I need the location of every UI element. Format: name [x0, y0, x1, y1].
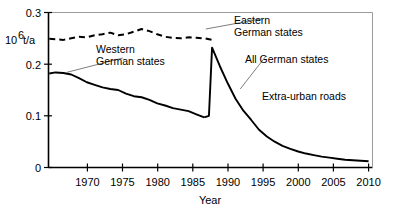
y-unit-base: 10 [5, 34, 17, 46]
annotation-extra-urban-roads: Extra-urban roads [262, 90, 346, 102]
y-tick-label-0.1: 0.1 [26, 110, 41, 122]
series-label-eastern-line1: Eastern [234, 14, 270, 26]
x-tick-label-2005: 2005 [321, 176, 345, 188]
y-unit-suffix: t/a [23, 34, 36, 46]
series-label-western-line2: German states [96, 55, 165, 67]
chart-figure: 0.3 0.2 0.1 0 10 6 t/a 1970 1975 1980 19… [0, 0, 394, 212]
y-tick-label-0.2: 0.2 [26, 59, 41, 71]
x-tick-label-2010: 2010 [356, 176, 380, 188]
series-labels: Western German states Eastern German sta… [96, 14, 346, 102]
x-tick-label-1995: 1995 [251, 176, 275, 188]
x-tick-label-1970: 1970 [75, 176, 99, 188]
series-label-all-german-states: All German states [245, 53, 328, 65]
series-line-eastern-german-states [49, 29, 212, 40]
x-tick-labels: 1970 1975 1980 1985 1990 1995 2000 2005 … [75, 176, 381, 188]
series-line-western-german-states [49, 72, 204, 117]
x-tick-label-1980: 1980 [145, 176, 169, 188]
y-tick-labels: 0.3 0.2 0.1 0 [26, 7, 41, 174]
x-axis-title: Year [199, 194, 222, 206]
series-label-western-line1: Western [96, 43, 135, 55]
x-tick-label-2000: 2000 [286, 176, 310, 188]
y-tick-label-0.3: 0.3 [26, 7, 41, 19]
y-axis-unit-label: 10 6 t/a [5, 29, 36, 47]
y-tick-label-0: 0 [35, 162, 41, 174]
x-tick-label-1985: 1985 [181, 176, 205, 188]
x-tick-label-1975: 1975 [110, 176, 134, 188]
chart-canvas: 0.3 0.2 0.1 0 10 6 t/a 1970 1975 1980 19… [0, 0, 394, 212]
series-label-eastern-line2: German states [234, 26, 303, 38]
x-tick-label-1990: 1990 [216, 176, 240, 188]
